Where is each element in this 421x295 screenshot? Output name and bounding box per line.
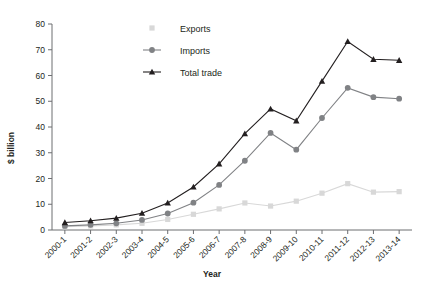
data-point-marker xyxy=(139,217,145,223)
data-point-marker xyxy=(371,94,377,100)
data-point-marker xyxy=(396,96,402,102)
chart-legend: ExportsImportsTotal trade xyxy=(143,24,222,78)
x-tick-label: 2003-4 xyxy=(120,234,146,260)
data-point-marker xyxy=(345,181,350,186)
legend-item-imports[interactable]: Imports xyxy=(143,46,211,56)
y-tick-label: 20 xyxy=(36,174,46,184)
data-point-marker xyxy=(397,189,402,194)
x-tick-label: 2011-12 xyxy=(322,234,351,263)
x-tick-label: 2000-1 xyxy=(42,234,68,260)
data-point-marker xyxy=(293,118,299,124)
data-point-marker xyxy=(319,78,325,84)
data-point-marker xyxy=(165,200,171,206)
legend-label: Imports xyxy=(180,46,211,56)
y-tick-label: 30 xyxy=(36,148,46,158)
data-point-marker xyxy=(217,206,222,211)
x-tick-label: 2012-13 xyxy=(348,234,377,263)
x-tick-label: 2005-6 xyxy=(171,234,197,260)
data-point-marker xyxy=(242,158,248,164)
legend-item-exports[interactable]: Exports xyxy=(149,24,211,34)
data-series-group xyxy=(62,38,403,229)
x-tick-label: 2010-11 xyxy=(297,234,326,263)
x-tick-label: 2002-3 xyxy=(94,234,120,260)
data-point-marker xyxy=(139,210,145,216)
data-point-marker xyxy=(149,25,154,30)
chart-canvas: 01020304050607080 2000-12001-22002-32003… xyxy=(0,0,421,295)
data-point-marker xyxy=(165,211,171,217)
data-point-marker xyxy=(165,217,170,222)
data-point-marker xyxy=(191,212,196,217)
y-tick-label: 60 xyxy=(36,71,46,81)
data-point-marker xyxy=(268,130,274,136)
x-tick-label: 2006-7 xyxy=(197,234,223,260)
data-point-marker xyxy=(149,47,155,53)
data-point-marker xyxy=(268,203,273,208)
data-point-marker xyxy=(267,106,273,112)
y-tick-label: 70 xyxy=(36,45,46,55)
legend-label: Exports xyxy=(180,24,211,34)
data-point-marker xyxy=(371,190,376,195)
x-tick-label: 2004-5 xyxy=(145,234,171,260)
data-point-marker xyxy=(293,147,299,153)
data-point-marker xyxy=(216,182,222,188)
y-tick-label: 80 xyxy=(36,19,46,29)
line-chart: 01020304050607080 2000-12001-22002-32003… xyxy=(0,0,421,295)
series-total-trade xyxy=(62,38,403,225)
y-tick-label: 40 xyxy=(36,122,46,132)
data-point-marker xyxy=(345,38,351,44)
y-axis: 01020304050607080 xyxy=(36,19,52,235)
data-point-marker xyxy=(294,199,299,204)
x-axis: 2000-12001-22002-32003-42004-52005-62006… xyxy=(42,230,412,263)
x-axis-title: Year xyxy=(203,269,222,279)
legend-label: Total trade xyxy=(180,68,222,78)
y-tick-label: 0 xyxy=(40,225,45,235)
data-point-marker xyxy=(319,115,325,121)
series-exports xyxy=(62,181,401,229)
y-tick-label: 10 xyxy=(36,199,46,209)
x-tick-label: 2001-2 xyxy=(68,234,94,260)
x-tick-label: 2009-10 xyxy=(271,234,300,263)
data-point-marker xyxy=(345,85,351,91)
x-tick-label: 2013-14 xyxy=(373,234,402,263)
data-point-marker xyxy=(242,200,247,205)
data-point-marker xyxy=(191,200,197,206)
y-axis-title: $ billion xyxy=(6,132,16,164)
data-point-marker xyxy=(113,220,119,226)
series-imports xyxy=(62,85,402,229)
legend-item-total-trade[interactable]: Total trade xyxy=(143,68,222,78)
data-point-marker xyxy=(319,191,324,196)
x-tick-label: 2007-8 xyxy=(222,234,248,260)
y-tick-label: 50 xyxy=(36,96,46,106)
